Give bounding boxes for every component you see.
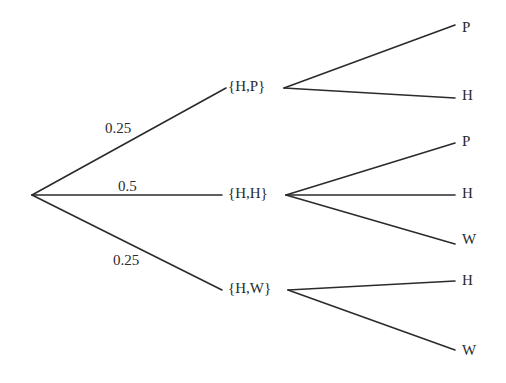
edge-node-1-to-leaf-0 bbox=[286, 143, 455, 195]
leaf-label-0-1: H bbox=[462, 87, 473, 103]
edge-root-to-node-2 bbox=[32, 195, 222, 290]
leaf-label-1-2: W bbox=[462, 231, 477, 247]
node-label-1: {H,H} bbox=[228, 185, 268, 201]
node-label-2: {H,W} bbox=[228, 280, 271, 296]
tree-labels: {H,P}0.25PH{H,H}0.5PHW{H,W}0.25HW bbox=[105, 19, 477, 358]
probability-label-1: 0.5 bbox=[118, 178, 137, 194]
node-label-0: {H,P} bbox=[228, 78, 265, 94]
leaf-label-0-0: P bbox=[462, 19, 470, 35]
leaf-label-1-0: P bbox=[462, 133, 470, 149]
probability-tree-diagram: {H,P}0.25PH{H,H}0.5PHW{H,W}0.25HW bbox=[0, 0, 506, 383]
edge-node-2-to-leaf-0 bbox=[288, 281, 455, 290]
edge-node-1-to-leaf-2 bbox=[286, 195, 455, 244]
probability-label-2: 0.25 bbox=[113, 252, 139, 268]
edge-node-2-to-leaf-1 bbox=[288, 290, 455, 350]
leaf-label-2-1: W bbox=[462, 342, 477, 358]
leaf-label-2-0: H bbox=[462, 272, 473, 288]
leaf-label-1-1: H bbox=[462, 185, 473, 201]
probability-label-0: 0.25 bbox=[105, 120, 131, 136]
edge-node-0-to-leaf-1 bbox=[284, 88, 455, 98]
edge-node-0-to-leaf-0 bbox=[284, 25, 455, 88]
